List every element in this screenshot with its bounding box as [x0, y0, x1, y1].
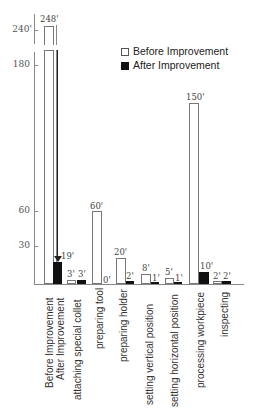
- legend-label-before: Before Improvement: [133, 45, 228, 57]
- bar-collet-before: [67, 280, 76, 284]
- y-tick-label-60: 60: [0, 205, 30, 215]
- bar-processing-before: [189, 103, 199, 284]
- bar-collet-after: [77, 280, 86, 284]
- y-axis-lower: [34, 52, 35, 284]
- legend-item-after: After Improvement: [121, 59, 228, 73]
- bar-total-side-line-upper: [56, 25, 57, 45]
- value-label-horizontal-before: 5': [165, 267, 173, 277]
- y-tick-label-30: 30: [0, 240, 30, 250]
- y-tick-240: [34, 30, 38, 31]
- bar-inspecting-before: [213, 281, 222, 284]
- reduction-arrow-shaft: [57, 50, 58, 258]
- value-label-vertical-after: 1': [152, 273, 160, 283]
- bar-processing-after: [199, 272, 209, 284]
- legend-label-after: After Improvement: [133, 59, 219, 71]
- value-label-collet-after: 3': [78, 269, 86, 279]
- legend-swatch-after-icon: [121, 62, 129, 70]
- y-tick-60: [34, 211, 38, 212]
- y-tick-180: [34, 65, 38, 66]
- category-label-vertical: setting vertical position: [144, 304, 155, 405]
- category-label-collet: attaching special collet: [72, 299, 83, 400]
- value-label-holder-before: 20': [114, 247, 127, 257]
- value-label-processing-before: 150': [186, 92, 205, 102]
- y-axis-upper: [34, 14, 35, 44]
- value-label-processing-after: 10': [200, 261, 213, 271]
- value-label-inspecting-after: 2': [223, 271, 231, 281]
- category-label-total-after: After Improvement: [55, 298, 66, 380]
- category-label-tool: preparing tool: [94, 288, 105, 349]
- bar-vertical-before: [141, 274, 151, 284]
- bar-holder-after: [126, 281, 134, 284]
- legend-item-before: Before Improvement: [121, 45, 228, 59]
- bar-total-after: [53, 262, 62, 284]
- y-tick-label-180: 180: [0, 59, 30, 69]
- legend: Before Improvement After Improvement: [121, 45, 228, 73]
- x-axis: [34, 284, 244, 285]
- y-tick-30: [34, 246, 38, 247]
- category-label-total-before: Before Improvement: [44, 297, 55, 388]
- bar-total-before-lower: [44, 50, 54, 284]
- bar-inspecting-after: [222, 281, 231, 284]
- value-label-total-before: 248': [40, 14, 59, 24]
- category-label-holder: preparing holder: [118, 289, 129, 362]
- y-tick-label-240: 240': [2, 24, 32, 34]
- category-label-horizontal: setting horizontal position: [169, 294, 180, 407]
- legend-swatch-before-icon: [121, 48, 129, 56]
- bar-total-before-upper: [44, 26, 54, 45]
- value-label-tool-after: 0': [103, 275, 111, 285]
- value-label-horizontal-after: 1': [175, 273, 183, 283]
- value-label-tool-before: 60': [90, 201, 103, 211]
- bar-tool-before: [92, 211, 102, 284]
- value-label-collet-before: 3': [67, 269, 75, 279]
- bar-holder-before: [116, 258, 126, 284]
- category-label-inspecting: inspecting: [219, 292, 230, 337]
- value-label-holder-after: 2': [126, 271, 134, 281]
- value-label-vertical-before: 8': [142, 263, 150, 273]
- value-label-total-after: 19': [61, 251, 74, 261]
- category-label-processing: processing workpiece: [195, 292, 206, 388]
- value-label-inspecting-before: 2': [213, 271, 221, 281]
- bar-horizontal-before: [165, 278, 174, 284]
